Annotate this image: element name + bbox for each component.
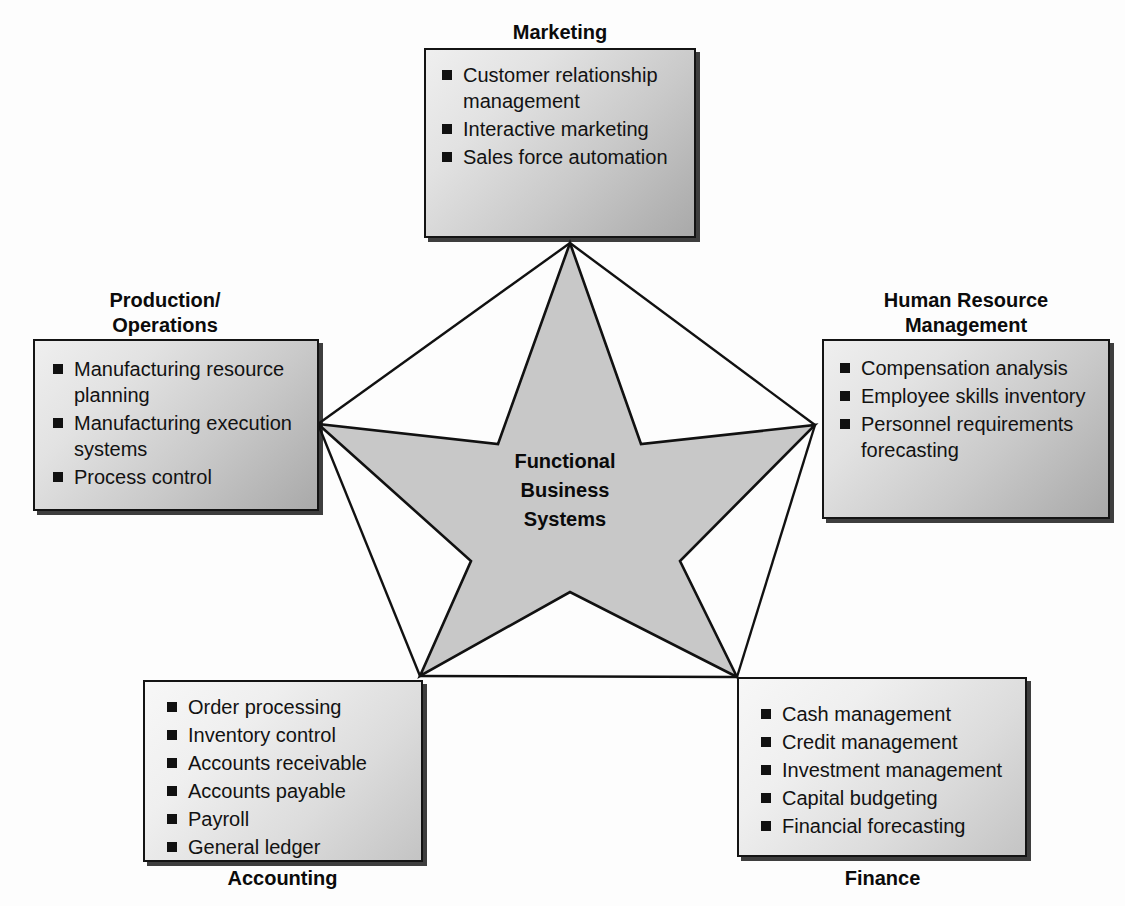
bullet-square-icon <box>53 472 63 482</box>
list-item: Interactive marketing <box>438 116 684 142</box>
list-marketing: Customer relationship management Interac… <box>438 62 684 170</box>
panel-human-resource-management[interactable]: Compensation analysis Employee skills in… <box>822 339 1110 519</box>
list-item-label: Credit management <box>782 731 958 753</box>
bullet-square-icon <box>761 765 771 775</box>
list-item: Financial forecasting <box>757 813 1017 839</box>
list-item-label: Interactive marketing <box>463 118 649 140</box>
list-item-label: Accounts receivable <box>188 752 367 774</box>
list-item-label: Payroll <box>188 808 249 830</box>
list-item: Cash management <box>757 701 1017 727</box>
list-item-label: Manufacturing resource planning <box>74 358 284 406</box>
list-item: Process control <box>49 464 307 490</box>
caption-human-resource-management: Human Resource Management <box>830 288 1102 338</box>
bullet-square-icon <box>167 786 177 796</box>
list-human-resource-management: Compensation analysis Employee skills in… <box>836 355 1100 463</box>
list-item-label: Order processing <box>188 696 341 718</box>
list-item-label: General ledger <box>188 836 320 858</box>
bullet-square-icon <box>53 418 63 428</box>
list-item: Order processing <box>163 694 413 720</box>
panel-finance[interactable]: Cash management Credit management Invest… <box>737 677 1027 857</box>
center-label-line-3: Systems <box>475 505 655 534</box>
bullet-square-icon <box>167 758 177 768</box>
list-item-label: Investment management <box>782 759 1002 781</box>
list-item: Sales force automation <box>438 144 684 170</box>
list-item-label: Process control <box>74 466 212 488</box>
list-item: Accounts receivable <box>163 750 413 776</box>
bullet-square-icon <box>761 793 771 803</box>
list-item-label: Cash management <box>782 703 951 725</box>
list-item-label: Manufacturing execution systems <box>74 412 292 460</box>
list-item: Manufacturing execution systems <box>49 410 307 462</box>
connector-accounting-finance <box>420 676 737 677</box>
bullet-square-icon <box>761 821 771 831</box>
bullet-square-icon <box>442 124 452 134</box>
list-item: General ledger <box>163 834 413 860</box>
list-item-label: Accounts payable <box>188 780 346 802</box>
bullet-square-icon <box>167 702 177 712</box>
list-item: Compensation analysis <box>836 355 1100 381</box>
list-item: Inventory control <box>163 722 413 748</box>
bullet-square-icon <box>761 709 771 719</box>
list-item-label: Inventory control <box>188 724 336 746</box>
list-finance: Cash management Credit management Invest… <box>757 701 1017 839</box>
list-item: Capital budgeting <box>757 785 1017 811</box>
bullet-square-icon <box>53 364 63 374</box>
list-item: Manufacturing resource planning <box>49 356 307 408</box>
list-item-label: Customer relationship management <box>463 64 658 112</box>
diagram-canvas: Functional Business Systems Marketing Cu… <box>0 0 1125 906</box>
list-item-label: Compensation analysis <box>861 357 1068 379</box>
list-item-label: Personnel requirements forecasting <box>861 413 1073 461</box>
list-production: Manufacturing resource planning Manufact… <box>49 356 307 490</box>
list-item: Customer relationship management <box>438 62 684 114</box>
list-item: Payroll <box>163 806 413 832</box>
bullet-square-icon <box>167 730 177 740</box>
caption-production: Production/ Operations <box>40 288 290 338</box>
list-item: Accounts payable <box>163 778 413 804</box>
caption-accounting: Accounting <box>150 866 415 891</box>
list-item-label: Sales force automation <box>463 146 668 168</box>
panel-marketing[interactable]: Customer relationship management Interac… <box>424 48 696 238</box>
panel-production[interactable]: Manufacturing resource planning Manufact… <box>33 339 319 511</box>
list-item-label: Employee skills inventory <box>861 385 1086 407</box>
bullet-square-icon <box>840 419 850 429</box>
caption-marketing: Marketing <box>430 20 690 45</box>
bullet-square-icon <box>840 363 850 373</box>
bullet-square-icon <box>167 814 177 824</box>
list-item: Personnel requirements forecasting <box>836 411 1100 463</box>
list-item: Investment management <box>757 757 1017 783</box>
list-accounting: Order processing Inventory control Accou… <box>163 694 413 860</box>
center-label-line-1: Functional <box>475 447 655 476</box>
list-item-label: Capital budgeting <box>782 787 938 809</box>
bullet-square-icon <box>167 842 177 852</box>
bullet-square-icon <box>442 152 452 162</box>
bullet-square-icon <box>840 391 850 401</box>
list-item: Credit management <box>757 729 1017 755</box>
center-label-line-2: Business <box>475 476 655 505</box>
bullet-square-icon <box>442 70 452 80</box>
bullet-square-icon <box>761 737 771 747</box>
panel-accounting[interactable]: Order processing Inventory control Accou… <box>143 680 423 862</box>
list-item: Employee skills inventory <box>836 383 1100 409</box>
caption-finance: Finance <box>745 866 1020 891</box>
list-item-label: Financial forecasting <box>782 815 965 837</box>
center-star-label: Functional Business Systems <box>475 447 655 534</box>
